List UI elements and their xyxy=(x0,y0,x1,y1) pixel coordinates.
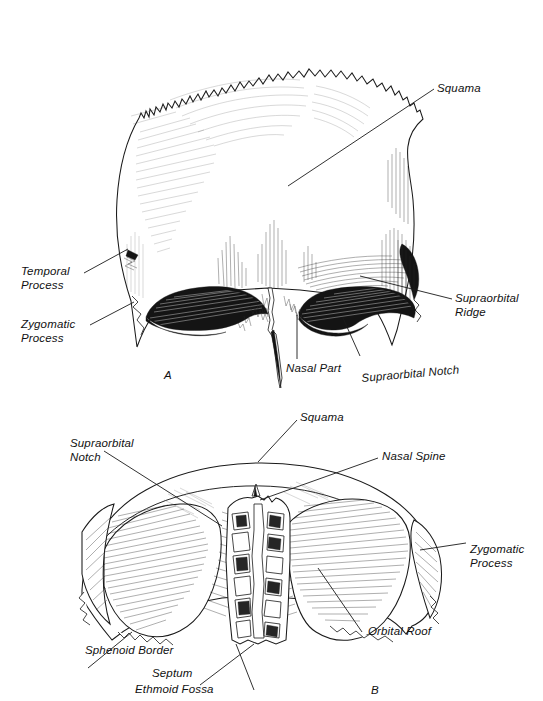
label-squama-a: Squama xyxy=(437,82,481,96)
figure-a-illustration xyxy=(0,0,543,400)
label-sphenoid-border-b: Sphenoid Border xyxy=(85,644,174,658)
label-temporal-process-a: Temporal Process xyxy=(21,265,70,292)
label-septum-b: Septum xyxy=(152,667,193,681)
anatomical-plate: Squama Temporal Process Zygomatic Proces… xyxy=(0,0,543,701)
label-ethmoid-fossa-b: Ethmoid Fossa xyxy=(135,683,214,697)
figure-letter-b: B xyxy=(371,684,379,696)
label-zygomatic-process-a: Zygomatic Process xyxy=(21,318,75,345)
label-supraorbital-notch-b: Supraorbital Notch xyxy=(70,437,134,464)
label-squama-b: Squama xyxy=(300,411,344,425)
leader-septum-b xyxy=(200,644,254,685)
label-supraorbital-ridge-a: Supraorbital Ridge xyxy=(455,292,519,319)
ethmoid-notch-b xyxy=(226,484,290,644)
leader-zygomatic-process-a xyxy=(90,302,134,325)
label-nasal-spine-b: Nasal Spine xyxy=(382,450,446,464)
label-zygomatic-process-b: Zygomatic Process xyxy=(470,543,524,570)
leader-squama-b xyxy=(258,420,297,462)
label-orbital-roof-b: Orbital Roof xyxy=(368,625,431,639)
figure-letter-a: A xyxy=(164,369,172,381)
label-nasal-part-a: Nasal Part xyxy=(286,362,341,376)
supraorbital-ridges-a xyxy=(146,287,416,337)
